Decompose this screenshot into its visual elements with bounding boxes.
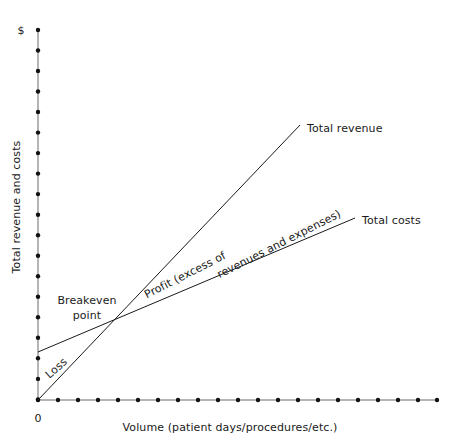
total-revenue-label: Total revenue: [307, 122, 383, 137]
y-axis-title: Total revenue and costs: [10, 141, 25, 274]
breakeven-point-label: Breakeven point: [57, 294, 116, 324]
total-costs-label: Total costs: [362, 214, 421, 229]
y-axis-currency-symbol: $: [17, 24, 24, 39]
breakeven-chart: $ 0 Total revenue and costs Volume (pati…: [0, 0, 453, 443]
x-axis-tick-dots: [36, 398, 439, 402]
breakeven-label-line2: point: [57, 309, 116, 324]
origin-label: 0: [34, 412, 41, 427]
breakeven-label-line1: Breakeven: [57, 294, 116, 307]
x-axis-title: Volume (patient days/procedures/etc.): [123, 421, 338, 436]
